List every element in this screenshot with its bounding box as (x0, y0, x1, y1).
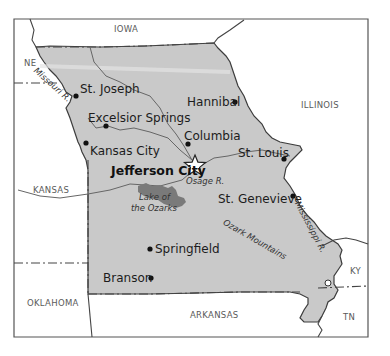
label-nebraska: NE (24, 59, 36, 68)
label-kansas-city: Kansas City (90, 145, 160, 157)
label-hannibal: Hannibal (187, 96, 240, 108)
label-branson: Branson (103, 272, 152, 284)
label-st-joseph: St. Joseph (80, 83, 140, 95)
missouri-map: IOWA NE ILLINOIS KANSAS OKLAHOMA ARKANSA… (0, 0, 390, 356)
kansas-city-dot (83, 140, 88, 145)
oklahoma-arkansas-border (88, 294, 92, 337)
label-lake-line1: Lake of (139, 193, 170, 202)
label-columbia: Columbia (184, 130, 241, 142)
label-tennessee: TN (343, 313, 355, 322)
iowa-illinois-border (214, 20, 244, 43)
label-springfield: Springfield (155, 243, 220, 255)
label-osage-river: Osage R. (186, 177, 224, 186)
label-lake-line2: the Ozarks (131, 204, 177, 213)
st-joseph-dot (73, 93, 78, 98)
label-illinois: ILLINOIS (301, 101, 339, 110)
cairo-marker (325, 280, 331, 286)
label-st-louis: St. Louis (238, 147, 289, 159)
nebraska-iowa-border (30, 19, 36, 47)
label-excelsior-springs: Excelsior Springs (88, 112, 190, 124)
label-iowa: IOWA (114, 25, 138, 34)
label-kansas: KANSAS (33, 186, 69, 195)
label-arkansas: ARKANSAS (190, 311, 238, 320)
label-oklahoma: OKLAHOMA (27, 299, 79, 308)
label-st-genevieve: St. Genevieve (218, 193, 302, 205)
label-kentucky: KY (350, 267, 361, 276)
springfield-dot (147, 246, 152, 251)
